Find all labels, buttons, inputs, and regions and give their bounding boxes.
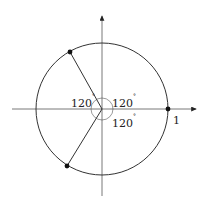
angle-label-upper-right: 120 xyxy=(112,97,133,110)
angle-label-lower-right: 120 xyxy=(112,117,133,130)
degree-symbol: ° xyxy=(133,112,136,119)
degree-symbol: ° xyxy=(133,92,136,99)
diagram-canvas: 120 ° 120 ° 120 ° 1 xyxy=(0,0,207,205)
point-upper-left xyxy=(68,50,73,55)
degree-symbol: ° xyxy=(92,92,95,99)
unit-circle-diagram: 120 ° 120 ° 120 ° 1 xyxy=(0,0,207,205)
radius-lower-left xyxy=(67,109,102,166)
point-right xyxy=(166,107,171,112)
angle-label-upper-left: 120 xyxy=(71,97,92,110)
point-lower-left xyxy=(65,164,70,169)
unit-label: 1 xyxy=(173,114,180,127)
